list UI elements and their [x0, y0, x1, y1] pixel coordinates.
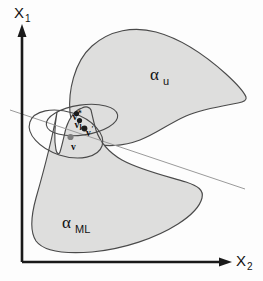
- x2-axis-arrowhead: [219, 258, 232, 267]
- region-label-alpha-u-subscript: u: [163, 75, 169, 87]
- data-point-label-v-prime: v: [86, 128, 91, 138]
- x1-axis-arrowhead: [18, 24, 27, 37]
- region-label-alpha-ml-subscript: ML: [75, 223, 90, 235]
- region-label-alpha-u: α: [150, 65, 159, 84]
- data-point-label-v-star-superscript: *: [78, 109, 82, 118]
- x1-axis-label: X: [14, 4, 24, 21]
- data-point-label-v-plain: v: [71, 142, 76, 152]
- x2-axis-label-subscript: 2: [247, 261, 253, 272]
- data-point-v-plain: [67, 134, 73, 140]
- data-point-label-v-prime-superscript: ′: [92, 125, 94, 134]
- diagram-figure: X 1 X 2 α u α ML v * v k v ′ v: [0, 0, 263, 281]
- x2-axis-label: X: [236, 252, 246, 269]
- region-alpha-u-shape: [70, 29, 247, 145]
- x1-axis-label-subscript: 1: [25, 13, 31, 24]
- region-label-alpha-ml: α: [62, 213, 71, 232]
- diagram-canvas: X 1 X 2 α u α ML v * v k v ′ v: [0, 0, 263, 281]
